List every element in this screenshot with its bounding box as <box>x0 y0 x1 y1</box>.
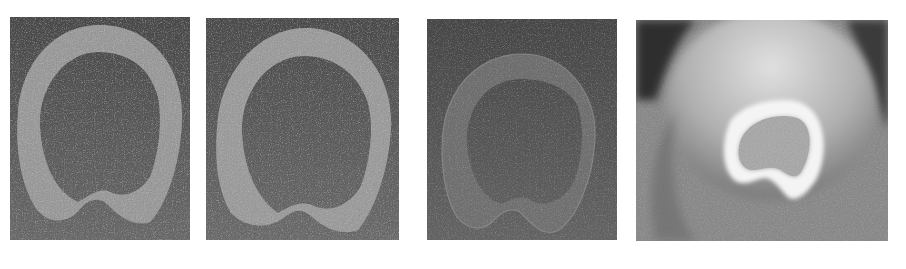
panel-b-noisy-ring <box>206 18 399 240</box>
panel-a-noisy-ring <box>10 17 190 240</box>
panel-d-radiograph <box>636 20 888 241</box>
panel-c-translucent-ring <box>427 19 617 240</box>
